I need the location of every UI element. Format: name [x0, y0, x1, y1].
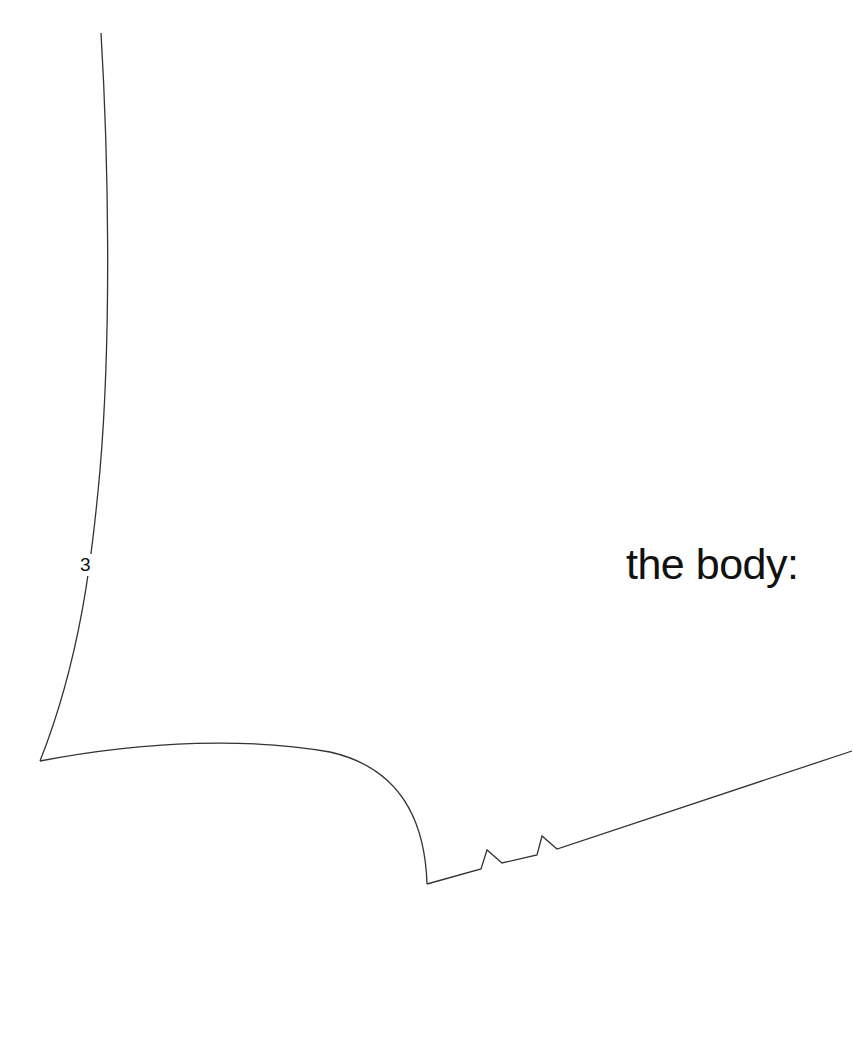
- diagram-title: the body:: [626, 538, 798, 590]
- pattern-piece-outline: [0, 0, 853, 1049]
- notched-edge: [427, 751, 852, 884]
- side-seam-curve: [40, 33, 108, 761]
- piece-number-label: 3: [79, 554, 92, 576]
- hem-curve: [40, 743, 427, 884]
